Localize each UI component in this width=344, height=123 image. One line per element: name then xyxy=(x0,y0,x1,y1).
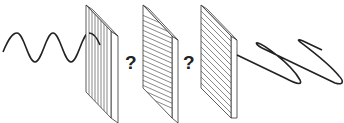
incoming-wave xyxy=(3,33,100,62)
polarizer-3-diagonal xyxy=(198,2,237,122)
question-mark-2: ? xyxy=(183,53,195,72)
question-mark-1: ? xyxy=(125,53,137,72)
outgoing-wave xyxy=(237,40,342,84)
polarizer-1-vertical xyxy=(86,0,118,123)
polarizer-2-diagonal xyxy=(140,5,178,123)
polarizer-diagram xyxy=(0,0,344,123)
